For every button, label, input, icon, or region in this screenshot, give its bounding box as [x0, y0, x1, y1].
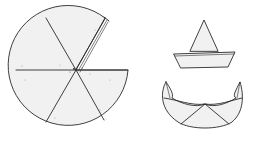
cone-hat — [174, 20, 235, 68]
folded-crown — [162, 82, 242, 128]
crown-horn-folds — [166, 82, 240, 98]
hat-cone — [190, 20, 218, 51]
folded-circle — [8, 5, 128, 125]
diagram-canvas — [0, 0, 256, 146]
circle-outline — [8, 5, 128, 125]
crown-body — [162, 82, 242, 128]
